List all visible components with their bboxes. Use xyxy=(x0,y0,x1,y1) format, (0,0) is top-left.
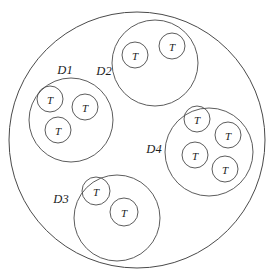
tuple-label: T xyxy=(222,164,229,176)
tuple-d2-2[interactable]: T xyxy=(159,33,185,59)
tuple-d2-1[interactable]: T xyxy=(122,42,148,68)
region-circle-d4[interactable] xyxy=(165,108,253,196)
venn-diagram-canvas: D1TTTD2TTD3TTD4TTTT xyxy=(0,0,274,279)
tuple-label: T xyxy=(225,130,232,142)
tuple-d1-3[interactable]: T xyxy=(45,117,71,143)
region-label-d3: D3 xyxy=(52,192,68,206)
tuple-d1-2[interactable]: T xyxy=(72,94,98,120)
tuple-label: T xyxy=(132,50,139,62)
region-group-d4: D4TTTT xyxy=(145,106,253,196)
tuple-d4-2[interactable]: T xyxy=(215,122,241,148)
tuple-d3-1[interactable]: T xyxy=(82,177,110,205)
regions-group: D1TTTD2TTD3TTD4TTTT xyxy=(29,20,253,261)
region-label-d2: D2 xyxy=(95,64,111,78)
tuple-d4-3[interactable]: T xyxy=(182,142,208,168)
tuple-label: T xyxy=(47,94,54,106)
tuple-label: T xyxy=(82,102,89,114)
tuple-label: T xyxy=(93,186,100,198)
tuple-label: T xyxy=(194,114,201,126)
region-label-d4: D4 xyxy=(145,142,161,156)
tuple-d4-4[interactable]: T xyxy=(212,156,238,182)
tuple-label: T xyxy=(192,150,199,162)
region-circle-d3[interactable] xyxy=(74,175,160,261)
region-label-d1: D1 xyxy=(56,63,72,77)
region-group-d2: D2TT xyxy=(95,20,198,106)
tuple-label: T xyxy=(169,41,176,53)
diagram-svg: D1TTTD2TTD3TTD4TTTT xyxy=(0,0,274,279)
region-circle-d1[interactable] xyxy=(29,78,113,162)
tuple-d1-1[interactable]: T xyxy=(37,86,63,112)
tuple-d3-2[interactable]: T xyxy=(110,198,138,226)
tuple-label: T xyxy=(55,125,62,137)
tuple-label: T xyxy=(121,207,128,219)
